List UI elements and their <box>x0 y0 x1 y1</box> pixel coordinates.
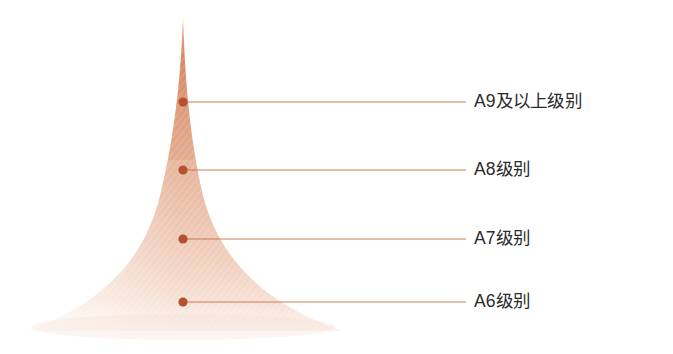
tier-dot-1[interactable] <box>178 97 187 106</box>
tier-dot-2[interactable] <box>178 165 187 174</box>
tier-label-a8: A8级别 <box>474 161 530 179</box>
tier-label-a7: A7级别 <box>474 230 530 248</box>
pyramid-body <box>0 0 673 354</box>
tier-dot-4[interactable] <box>178 297 187 306</box>
tier-dot-3[interactable] <box>178 234 187 243</box>
pyramid-base-haze <box>31 314 335 340</box>
pyramid-graphic <box>0 0 673 354</box>
pyramid-figure: A9及以上级别 A8级别 A7级别 A6级别 <box>0 0 673 354</box>
tier-label-a9: A9及以上级别 <box>474 93 582 111</box>
tier-label-a6: A6级别 <box>474 293 530 311</box>
